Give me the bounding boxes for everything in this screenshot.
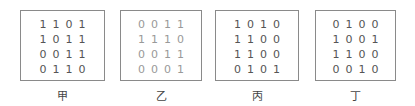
- grid-cell: 1: [231, 32, 244, 47]
- grid-cell: 1: [76, 17, 89, 32]
- grid-cell: 1: [161, 47, 174, 62]
- grid-cell: 1: [330, 47, 343, 62]
- grid-cell: 0: [343, 62, 356, 77]
- grid-row: 0011: [21, 47, 104, 62]
- grid-cell: 0: [330, 17, 343, 32]
- grid-cell: 0: [270, 32, 283, 47]
- grid-row: 0100: [316, 17, 395, 32]
- grid-cell: 1: [76, 47, 89, 62]
- grid-panel-2: 0011 1110 0011 0001 乙: [120, 10, 202, 103]
- grid-label: 丁: [315, 87, 396, 103]
- grid-row: 1010: [216, 17, 298, 32]
- grid-cell: 1: [135, 32, 148, 47]
- grid-row: 1101: [21, 17, 104, 32]
- grid-cell: 1: [356, 62, 369, 77]
- grid-cell: 1: [50, 62, 63, 77]
- grid-cell: 1: [343, 17, 356, 32]
- grid-cell: 1: [161, 17, 174, 32]
- grid-cell: 0: [257, 32, 270, 47]
- grid-cell: 0: [257, 47, 270, 62]
- grid-cell: 0: [369, 47, 382, 62]
- grid-cell: 1: [37, 32, 50, 47]
- grid-cell: 1: [50, 17, 63, 32]
- grid-cell: 0: [257, 62, 270, 77]
- grid-row: 1100: [316, 47, 395, 62]
- grid-cell: 1: [161, 32, 174, 47]
- grid-cell: 0: [369, 62, 382, 77]
- grid-cell: 0: [76, 62, 89, 77]
- grid-row: 0010: [316, 62, 395, 77]
- grid-cell: 0: [270, 47, 283, 62]
- grid-cell: 0: [37, 62, 50, 77]
- binary-grid: 0011 1110 0011 0001: [120, 10, 202, 81]
- binary-grid: 0100 1001 1100 0010: [315, 10, 396, 81]
- grid-row: 0011: [121, 47, 201, 62]
- grid-cell: 1: [231, 17, 244, 32]
- grid-row: 1110: [121, 32, 201, 47]
- grid-cell: 1: [369, 32, 382, 47]
- grid-cell: 0: [369, 17, 382, 32]
- grid-row: 1011: [21, 32, 104, 47]
- grid-row: 1100: [216, 32, 298, 47]
- grid-cell: 1: [244, 47, 257, 62]
- grid-cell: 1: [76, 32, 89, 47]
- grid-row: 1100: [216, 47, 298, 62]
- grid-cell: 1: [63, 32, 76, 47]
- grid-panel-4: 0100 1001 1100 0010 丁: [315, 10, 396, 103]
- grid-cell: 0: [356, 47, 369, 62]
- grid-cell: 1: [270, 62, 283, 77]
- grid-cell: 0: [161, 62, 174, 77]
- grid-cell: 1: [37, 17, 50, 32]
- grid-cell: 1: [174, 62, 187, 77]
- grid-cell: 0: [270, 17, 283, 32]
- grid-cell: 1: [174, 17, 187, 32]
- grid-cell: 1: [330, 32, 343, 47]
- grid-label: 乙: [120, 87, 202, 103]
- grid-cell: 0: [148, 62, 161, 77]
- grid-cell: 1: [244, 32, 257, 47]
- grid-cell: 0: [37, 47, 50, 62]
- grid-cell: 1: [174, 47, 187, 62]
- grid-row: 0011: [121, 17, 201, 32]
- grid-label: 甲: [20, 87, 105, 103]
- grid-cell: 0: [135, 62, 148, 77]
- grid-cell: 0: [135, 47, 148, 62]
- grid-row: 0001: [121, 62, 201, 77]
- grid-cell: 0: [231, 62, 244, 77]
- grid-row: 1001: [316, 32, 395, 47]
- grid-cell: 0: [50, 47, 63, 62]
- grid-cell: 0: [174, 32, 187, 47]
- grid-cell: 1: [63, 47, 76, 62]
- grid-cell: 0: [343, 32, 356, 47]
- grid-cell: 0: [63, 17, 76, 32]
- grid-panel-3: 1010 1100 1100 0101 丙: [215, 10, 299, 103]
- grid-cell: 1: [231, 47, 244, 62]
- binary-grid: 1101 1011 0011 0110: [20, 10, 105, 81]
- binary-grid: 1010 1100 1100 0101: [215, 10, 299, 81]
- grid-row: 0101: [216, 62, 298, 77]
- grid-cell: 1: [244, 62, 257, 77]
- grid-cell: 1: [257, 17, 270, 32]
- grid-cell: 0: [50, 32, 63, 47]
- grid-row: 0110: [21, 62, 104, 77]
- grid-cell: 0: [330, 62, 343, 77]
- grid-cell: 1: [63, 62, 76, 77]
- grid-panel-1: 1101 1011 0011 0110 甲: [20, 10, 105, 103]
- grid-cell: 1: [343, 47, 356, 62]
- grid-cell: 0: [244, 17, 257, 32]
- grid-cell: 0: [135, 17, 148, 32]
- grid-cell: 0: [148, 47, 161, 62]
- grid-cell: 1: [148, 32, 161, 47]
- grid-cell: 0: [356, 17, 369, 32]
- grid-label: 丙: [215, 87, 299, 103]
- grid-cell: 0: [148, 17, 161, 32]
- grid-cell: 0: [356, 32, 369, 47]
